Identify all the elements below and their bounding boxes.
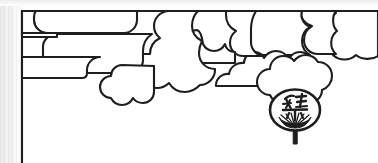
scanned-page <box>0 0 378 163</box>
cloud-lobe-far-right <box>329 11 378 60</box>
uchiwa-fan <box>270 90 320 145</box>
cloud-slab-right <box>250 11 310 55</box>
artwork-svg <box>0 0 378 163</box>
cloud-border-artwork <box>0 0 378 163</box>
kasumi-cloud-band <box>22 11 378 105</box>
cloud-pill-left-upper <box>34 11 137 33</box>
cloud-pill-left-bottom <box>22 57 100 78</box>
cloud-lobe-right-upper <box>300 11 337 54</box>
